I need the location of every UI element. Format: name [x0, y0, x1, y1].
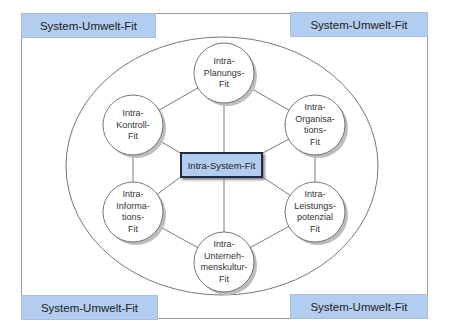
- node-line: Informa-: [103, 201, 163, 213]
- node-line: Intra-: [194, 56, 254, 68]
- corner-label-bottom-right: System-Umwelt-Fit: [290, 294, 428, 319]
- node-line: Intra-: [194, 239, 254, 251]
- node-line: Fit: [194, 274, 254, 286]
- node-line: Fit: [103, 224, 163, 236]
- node-line: Intra-: [285, 102, 345, 114]
- intra-system-fit-box: Intra-System-Fit: [180, 152, 263, 178]
- node-line: Kontroll-: [103, 119, 163, 131]
- node-label-planung: Intra- Planungs- Fit: [194, 56, 254, 91]
- node-line: menskultur-: [194, 262, 254, 274]
- node-line: potenzial: [285, 212, 345, 224]
- corner-label-bottom-left: System-Umwelt-Fit: [21, 295, 158, 320]
- node-line: tions-: [285, 125, 345, 137]
- corner-label-top-left: System-Umwelt-Fit: [21, 13, 156, 38]
- node-label-kontrolle: Intra- Kontroll- Fit: [103, 108, 163, 143]
- node-line: Fit: [285, 224, 345, 236]
- node-line: Planungs-: [194, 67, 254, 79]
- node-line: Intra-: [103, 189, 163, 201]
- node-line: Intra-: [103, 108, 163, 120]
- node-line: Leistungs-: [285, 201, 345, 213]
- node-line: Fit: [194, 79, 254, 91]
- node-line: Fit: [103, 131, 163, 143]
- node-label-unternehmenskultur: Intra- Unterneh- menskultur- Fit: [194, 239, 254, 285]
- node-label-leistungspotenzial: Intra- Leistungs- potenzial Fit: [285, 189, 345, 235]
- node-line: Organisa-: [285, 114, 345, 126]
- corner-label-top-right: System-Umwelt-Fit: [290, 12, 428, 37]
- node-line: Unterneh-: [194, 251, 254, 263]
- node-line: Intra-: [285, 189, 345, 201]
- node-line: tions-: [103, 212, 163, 224]
- node-label-information: Intra- Informa- tions- Fit: [103, 189, 163, 235]
- node-line: Fit: [285, 137, 345, 149]
- node-label-organisation: Intra- Organisa- tions- Fit: [285, 102, 345, 148]
